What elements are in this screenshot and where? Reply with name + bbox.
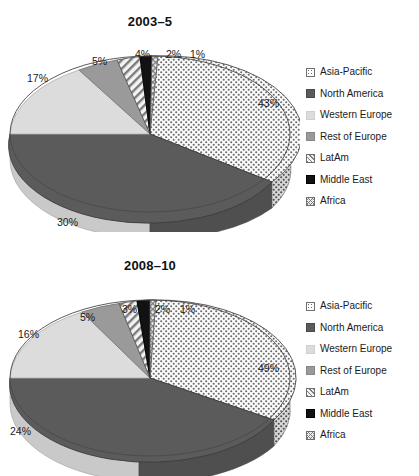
pie-value-label: 1%	[190, 48, 205, 60]
pie-svg	[0, 36, 300, 232]
legend-swatch-light-gray-icon	[306, 111, 315, 120]
legend-item[interactable]: LatAm	[306, 152, 419, 164]
legend-swatch-crosshatch-icon	[306, 431, 315, 440]
legend-item[interactable]: Africa	[306, 429, 419, 441]
legend-item[interactable]: North America	[306, 88, 419, 100]
legend-item[interactable]: North America	[306, 322, 419, 334]
chart-title: 2008–10	[0, 258, 300, 273]
pie-value-label: 1%	[180, 303, 195, 315]
legend-item[interactable]: LatAm	[306, 386, 419, 398]
pie-value-label: 5%	[80, 311, 95, 323]
pie-value-label: 4%	[135, 48, 150, 60]
legend-label: Western Europe	[320, 344, 392, 354]
legend-item[interactable]: Rest of Europe	[306, 131, 419, 143]
legend-label: Rest of Europe	[320, 366, 387, 376]
legend-label: North America	[320, 89, 383, 99]
legend-item[interactable]: Asia-Pacific	[306, 300, 419, 312]
legend-2003-5: Asia-Pacific North America Western Europ…	[306, 66, 419, 217]
pie-svg	[0, 280, 300, 476]
legend-swatch-dotted-icon	[306, 302, 315, 311]
legend-item[interactable]: Middle East	[306, 174, 419, 186]
legend-label: Africa	[320, 196, 346, 206]
legend-swatch-dark-gray-icon	[306, 89, 315, 98]
pie-value-label: 2%	[166, 48, 181, 60]
legend-label: Rest of Europe	[320, 132, 387, 142]
legend-label: Asia-Pacific	[320, 301, 372, 311]
pie-value-label: 49%	[258, 362, 279, 374]
pie-value-label: 30%	[57, 216, 78, 228]
pie-value-label: 5%	[92, 55, 107, 67]
chart-block-2008-10: 2008–10	[0, 240, 419, 475]
pie-value-label: 24%	[10, 425, 31, 437]
legend-label: LatAm	[320, 387, 349, 397]
legend-swatch-dark-gray-icon	[306, 323, 315, 332]
legend-item[interactable]: Western Europe	[306, 343, 419, 355]
legend-swatch-dotted-icon	[306, 68, 315, 77]
legend-item[interactable]: Western Europe	[306, 109, 419, 121]
legend-item[interactable]: Rest of Europe	[306, 365, 419, 377]
pie-value-label: 17%	[27, 72, 48, 84]
legend-item[interactable]: Asia-Pacific	[306, 66, 419, 78]
pie-value-label: 3%	[122, 303, 137, 315]
chart-block-2003-5: 2003–5	[0, 0, 419, 235]
legend-swatch-crosshatch-icon	[306, 197, 315, 206]
legend-label: Africa	[320, 430, 346, 440]
legend-label: North America	[320, 323, 383, 333]
legend-label: LatAm	[320, 153, 349, 163]
legend-item[interactable]: Middle East	[306, 408, 419, 420]
legend-swatch-medium-gray-icon	[306, 366, 315, 375]
legend-label: Asia-Pacific	[320, 67, 372, 77]
pie-chart-2008-10	[0, 280, 300, 476]
legend-label: Middle East	[320, 175, 372, 185]
pie-value-label: 2%	[155, 303, 170, 315]
legend-swatch-hatch-icon	[306, 388, 315, 397]
legend-label: Western Europe	[320, 110, 392, 120]
chart-title: 2003–5	[0, 14, 300, 29]
legend-2008-10: Asia-Pacific North America Western Europ…	[306, 300, 419, 451]
legend-label: Middle East	[320, 409, 372, 419]
legend-swatch-hatch-icon	[306, 154, 315, 163]
legend-swatch-black-icon	[306, 175, 315, 184]
legend-item[interactable]: Africa	[306, 195, 419, 207]
pie-chart-2003-5	[0, 36, 300, 232]
legend-swatch-light-gray-icon	[306, 345, 315, 354]
legend-swatch-medium-gray-icon	[306, 132, 315, 141]
pie-value-label: 43%	[258, 97, 279, 109]
legend-swatch-black-icon	[306, 409, 315, 418]
pie-value-label: 16%	[18, 328, 39, 340]
